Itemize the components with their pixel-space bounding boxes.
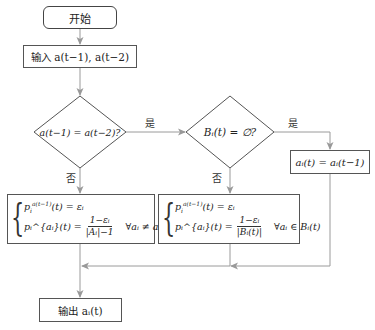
edge-right-formula-merge bbox=[82, 244, 230, 266]
formula-left-fraction: 1−εᵢ |Aᵢ|−1 bbox=[84, 215, 116, 238]
decision1-no-label: 否 bbox=[66, 170, 76, 185]
decision1-label: a(t−1) = a(t−2)? bbox=[34, 124, 126, 140]
formula-right-box: { pia(t−1)(t) = εᵢ pᵢ^{aᵢ}(t) = 1−εᵢ |Bᵢ… bbox=[158, 194, 300, 244]
edge-decision2-yes bbox=[274, 132, 330, 149]
decision1-yes-label: 是 bbox=[145, 115, 155, 130]
left-brace-icon: { bbox=[11, 197, 24, 237]
assign-node: aᵢ(t) = aᵢ(t−1) bbox=[290, 150, 370, 174]
start-label: 开始 bbox=[69, 10, 91, 26]
output-node: 输出 aᵢ(t) bbox=[39, 298, 122, 322]
decision2-no-label: 否 bbox=[212, 170, 222, 185]
input-node: 输入 a(t−1), a(t−2) bbox=[23, 45, 137, 68]
decision2-yes-label: 是 bbox=[288, 115, 298, 130]
formula-left-box: { pia(t−1)(t) = εᵢ pᵢ^{aᵢ}(t) = 1−εᵢ |Aᵢ… bbox=[7, 194, 155, 244]
decision2-text: Bᵢ(t) = ∅? bbox=[204, 126, 256, 138]
assign-label: aᵢ(t) = aᵢ(t−1) bbox=[295, 157, 364, 168]
decision2-label: Bᵢ(t) = ∅? bbox=[186, 124, 274, 140]
input-label: 输入 a(t−1), a(t−2) bbox=[31, 49, 129, 64]
formula-right-line2: pᵢ^{aᵢ}(t) = 1−εᵢ |Bᵢ(t)| ∀aᵢ ∈ Bᵢ(t) bbox=[175, 215, 320, 238]
formula-left-line1: pia(t−1)(t) = εᵢ bbox=[24, 200, 84, 214]
formula-right-fraction: 1−εᵢ |Bᵢ(t)| bbox=[235, 215, 264, 238]
formula-right-line1: pia(t−1)(t) = εᵢ bbox=[175, 200, 235, 214]
formula-right-condition: ∀aᵢ ∈ Bᵢ(t) bbox=[274, 221, 321, 232]
output-label: 输出 aᵢ(t) bbox=[58, 303, 102, 318]
start-node: 开始 bbox=[43, 6, 117, 29]
decision1-text: a(t−1) = a(t−2)? bbox=[40, 127, 121, 138]
right-brace-icon: { bbox=[162, 197, 175, 237]
